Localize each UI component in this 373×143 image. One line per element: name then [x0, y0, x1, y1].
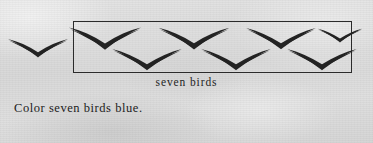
gull-bird-icon	[8, 39, 68, 58]
instruction-sentence: Color seven birds blue.	[14, 101, 143, 116]
illustration-area	[0, 0, 373, 143]
illustration-caption: seven birds	[0, 76, 373, 88]
worksheet-page: seven birds Color seven birds blue.	[0, 0, 373, 143]
bird-group-box	[73, 21, 352, 73]
